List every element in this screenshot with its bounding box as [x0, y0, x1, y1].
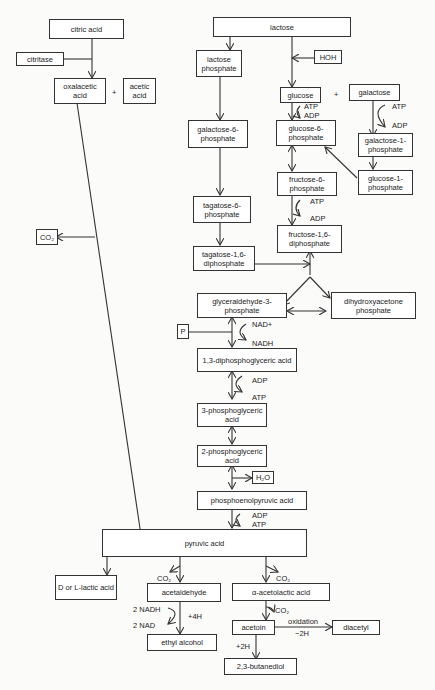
node-acetic-acid: acetic acid: [123, 78, 156, 104]
atp-label: ATP: [310, 197, 324, 206]
node-h2o: H₂O: [252, 471, 274, 484]
adp-label: ADP: [310, 214, 325, 223]
node-galactose-1-phosphate: galactose-1-phosphate: [358, 133, 413, 157]
node-tagatose-1-6-diphosphate: tagatose-1,6-diphosphate: [193, 246, 255, 271]
node-diacetyl: diacetyl: [332, 620, 380, 635]
adp-label: ADP: [252, 376, 267, 385]
node-3-phosphoglyceric-acid: 3-phosphoglyceric acid: [197, 403, 267, 427]
nadh-label: NADH: [252, 339, 273, 348]
minus-2h-label: −2H: [295, 629, 309, 638]
node-2-phosphoglyceric-acid: 2-phosphoglyceric acid: [197, 445, 267, 467]
node-dihydroxyacetone-phosphate: dihydroxyacetone phosphate: [331, 292, 416, 319]
node-acetoin: acetoin: [232, 620, 275, 635]
adp-label: ADP: [252, 511, 267, 520]
node-lactose: lactose: [213, 17, 351, 37]
node-co2-left: CO₂: [36, 229, 58, 245]
node-alpha-acetolactic-acid: α-acetolactic acid: [232, 583, 330, 601]
plus-sign: +: [334, 90, 338, 99]
node-galactose: galactose: [349, 84, 400, 101]
co2-label: CO₂: [276, 574, 290, 583]
node-pyruvic-acid: pyruvic acid: [102, 529, 307, 557]
node-glyceraldehyde-3-phosphate: glyceraldehyde-3-phosphate: [197, 293, 287, 318]
node-lactic-acid: D or L-lactic acid: [55, 575, 117, 600]
node-ethyl-alcohol: ethyl alcohol: [147, 634, 217, 651]
node-phosphoenolpyruvic-acid: phosphoenolpyruvic acid: [197, 491, 307, 510]
node-tagatose-6-phosphate: tagatose-6-phosphate: [193, 196, 251, 223]
node-citritase: citritase: [16, 52, 64, 66]
atp-label: ATP: [392, 102, 406, 111]
node-glucose-6-phosphate: glucose-6-phosphate: [276, 120, 336, 146]
node-glucose-1-phosphate: glucose-1-phosphate: [358, 170, 413, 195]
oxidation-label: oxidation: [288, 617, 318, 626]
node-galactose-6-phosphate: galactose-6-phosphate: [188, 120, 248, 148]
atp-label: ATP: [304, 102, 318, 111]
node-fructose-1-6-diphosphate: fructose-1,6-diphosphate: [277, 225, 342, 253]
atp-label: ATP: [252, 520, 266, 529]
plus-4h-label: +4H: [188, 612, 202, 621]
node-1-3-diphosphoglyceric-acid: 1,3-diphosphoglyceric acid: [197, 348, 297, 372]
node-lactose-phosphate: lactose phosphate: [196, 50, 242, 77]
node-oxalacetic-acid: oxalacetic acid: [54, 78, 106, 104]
node-acetaldehyde: acetaldehyde: [147, 583, 221, 602]
node-citric-acid: citric acid: [49, 19, 124, 39]
node-glucose: glucose: [280, 87, 321, 103]
node-fructose-6-phosphate: fructose-6-phosphate: [277, 172, 337, 196]
2-nadh-label: 2 NADH: [133, 605, 161, 614]
co2-label: CO₂: [275, 606, 289, 615]
node-2-3-butanediol: 2,3-butanediol: [224, 658, 297, 675]
adp-label: ADP: [304, 111, 319, 120]
nad-plus-label: NAD+: [252, 320, 272, 329]
2-nad-label: 2 NAD: [133, 621, 155, 630]
plus-2h-label: +2H: [236, 642, 250, 651]
co2-label: CO₂: [157, 574, 171, 583]
node-phosphate: P: [177, 324, 189, 339]
node-hoh: HOH: [314, 50, 342, 64]
atp-label: ATP: [252, 393, 266, 402]
plus-sign: +: [112, 88, 116, 97]
adp-label: ADP: [392, 121, 407, 130]
